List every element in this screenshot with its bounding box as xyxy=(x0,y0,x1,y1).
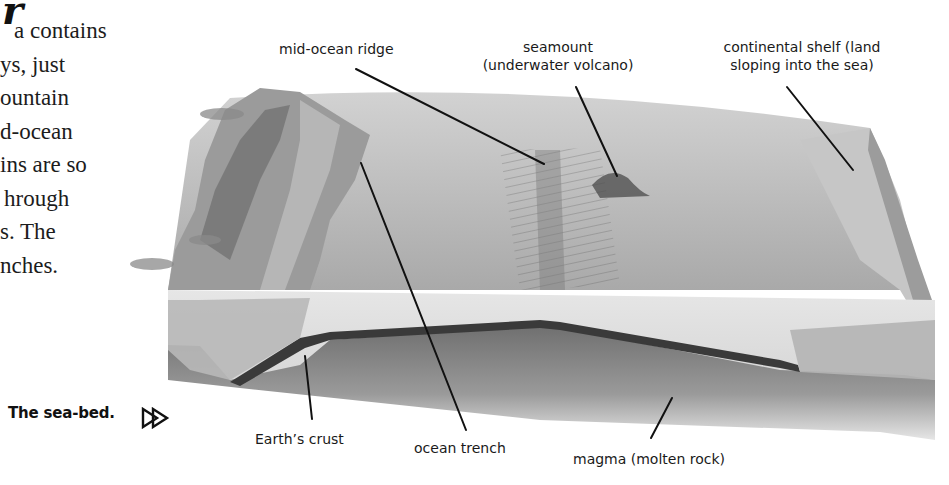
label-earths-crust: Earth’s crust xyxy=(255,430,344,448)
label-shelf-line2: sloping into the sea) xyxy=(682,56,922,74)
label-seamount-line2: (underwater volcano) xyxy=(462,56,654,74)
label-shelf-line1: continental shelf (land xyxy=(682,38,922,56)
label-mid-ocean-ridge: mid-ocean ridge xyxy=(279,40,394,58)
label-ocean-trench: ocean trench xyxy=(414,439,506,457)
label-seamount-line1: seamount xyxy=(462,38,654,56)
label-seamount: seamount (underwater volcano) xyxy=(462,38,654,74)
mid-ocean-ridge xyxy=(500,148,620,290)
cross-section xyxy=(168,290,935,440)
label-magma: magma (molten rock) xyxy=(573,450,725,468)
label-continental-shelf: continental shelf (land sloping into the… xyxy=(682,38,922,74)
